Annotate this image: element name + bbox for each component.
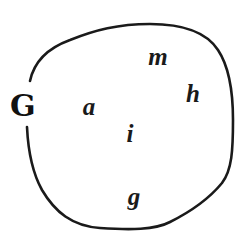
element-a: a bbox=[83, 94, 96, 119]
set-label-g: G bbox=[10, 91, 36, 121]
set-diagram: G a m h i g bbox=[0, 0, 242, 248]
element-i: i bbox=[127, 121, 134, 146]
element-g: g bbox=[128, 184, 141, 209]
element-h: h bbox=[186, 81, 200, 106]
element-m: m bbox=[148, 44, 167, 69]
set-boundary-curve bbox=[0, 0, 242, 248]
